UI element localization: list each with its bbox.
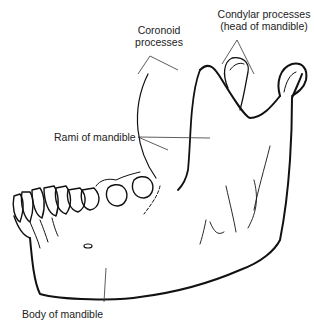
leader-rami (138, 137, 210, 150)
label-coronoid-processes: Coronoid processes (126, 24, 192, 48)
coronoid-process (178, 70, 200, 190)
teeth (13, 172, 153, 222)
mental-foramen (84, 244, 92, 248)
mandible-outline (30, 98, 292, 299)
leader-condylar (222, 40, 254, 74)
label-coronoid-line2: processes (126, 36, 192, 48)
condyle-right (279, 64, 307, 96)
mandible-illustration (0, 0, 314, 326)
leader-lines (104, 40, 254, 302)
label-condylar-line1: Condylar processes (214, 8, 314, 20)
label-rami-of-mandible: Rami of mandible (54, 131, 136, 143)
leader-body (104, 268, 106, 302)
label-coronoid-line1: Coronoid (126, 24, 192, 36)
label-condylar-line2: (head of mandible) (214, 20, 314, 32)
label-body-of-mandible: Body of mandible (22, 308, 103, 320)
label-condylar-processes: Condylar processes (head of mandible) (214, 8, 314, 32)
leader-coronoid (138, 56, 178, 74)
